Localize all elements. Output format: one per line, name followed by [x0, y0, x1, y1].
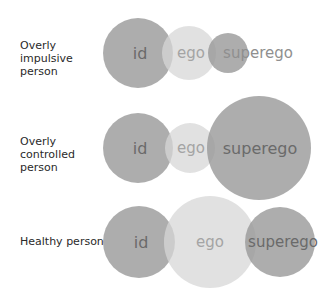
superego-label: superego — [223, 44, 293, 62]
id-label: id — [133, 139, 148, 158]
row-label-line: Overly impulsive — [20, 39, 110, 65]
row-label-healthy: Healthy person — [20, 235, 110, 248]
ego-label: ego — [177, 44, 205, 62]
ego-label: ego — [196, 233, 224, 251]
row-label-line: Healthy person — [20, 235, 110, 248]
row-label-line: person — [20, 65, 110, 78]
row-label-line: Overly controlled — [20, 135, 110, 161]
row-label-overly-impulsive: Overly impulsive person — [20, 39, 110, 78]
row-label-line: person — [20, 161, 110, 174]
row-label-overly-controlled: Overly controlled person — [20, 135, 110, 174]
superego-label: superego — [248, 233, 318, 251]
ego-label: ego — [177, 139, 205, 157]
id-label: id — [134, 233, 149, 252]
id-label: id — [133, 44, 148, 63]
superego-label: superego — [223, 139, 298, 158]
